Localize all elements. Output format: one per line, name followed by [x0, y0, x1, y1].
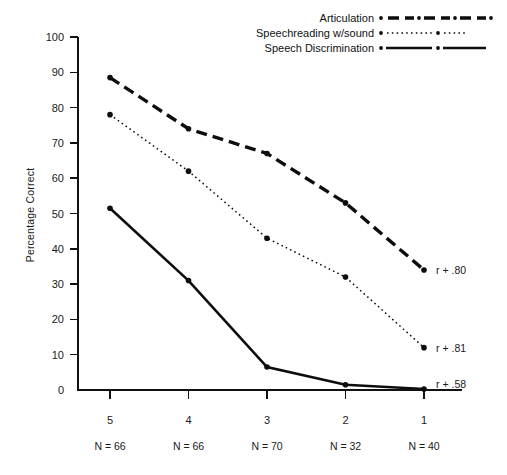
- x-sublabel-3: N = 70: [251, 440, 282, 452]
- data-point-speech-discrimination-3: [264, 364, 270, 370]
- y-tick-label-0: 0: [58, 384, 64, 396]
- y-axis-ticks: [70, 37, 78, 355]
- x-tick-label-2: 2: [342, 414, 348, 426]
- series-line-articulation: [110, 78, 424, 270]
- y-tick-label-50: 50: [52, 208, 64, 220]
- data-point-speech-discrimination-1: [421, 386, 427, 392]
- legend-entry-discrimination: Speech Discrimination: [265, 42, 486, 54]
- y-tick-label-90: 90: [52, 66, 64, 78]
- data-point-speechreading-w-sound-3: [264, 235, 270, 241]
- data-point-articulation-1: [421, 267, 427, 273]
- data-point-speechreading-w-sound-1: [421, 345, 427, 351]
- y-axis-title: Percentage Correct: [24, 168, 36, 263]
- annotation-articulation: r + .80: [436, 264, 466, 276]
- legend-marker-speechreading: [379, 31, 383, 35]
- y-tick-label-70: 70: [52, 137, 64, 149]
- x-axis-ticks: [110, 390, 424, 399]
- line-chart-canvas: Articulation Speechreading w/sound Speec…: [0, 0, 507, 475]
- legend-entry-speechreading: Speechreading w/sound: [256, 27, 468, 39]
- legend-marker-speechreading-2: [436, 31, 440, 35]
- chart-axes: [78, 37, 462, 390]
- x-tick-label-5: 5: [107, 414, 113, 426]
- chart-series-layer: [107, 75, 427, 392]
- data-point-articulation-2: [343, 200, 349, 206]
- x-sublabel-2: N = 32: [330, 440, 361, 452]
- annotation-speechreading: r + .81: [436, 342, 466, 354]
- data-point-speech-discrimination-2: [343, 382, 349, 388]
- x-tick-label-3: 3: [264, 414, 270, 426]
- x-axis-tick-labels: 5 4 3 2 1: [107, 414, 427, 426]
- legend-marker-articulation: [379, 16, 383, 20]
- x-sublabel-1: N = 40: [408, 440, 439, 452]
- data-point-articulation-3: [264, 151, 270, 157]
- x-tick-label-1: 1: [421, 414, 427, 426]
- legend-marker-articulation-2: [417, 16, 421, 20]
- series-articulation: [107, 75, 427, 273]
- data-point-speechreading-w-sound-4: [186, 168, 192, 174]
- y-tick-label-60: 60: [52, 172, 64, 184]
- legend-marker-discrimination-2: [436, 46, 440, 50]
- data-point-speechreading-w-sound-2: [343, 274, 349, 280]
- data-point-speech-discrimination-4: [186, 278, 192, 284]
- y-tick-label-40: 40: [52, 243, 64, 255]
- data-point-articulation-4: [186, 126, 192, 132]
- chart-legend: Articulation Speechreading w/sound Speec…: [256, 12, 493, 54]
- legend-label-speechreading: Speechreading w/sound: [256, 27, 374, 39]
- x-sublabel-5: N = 66: [94, 440, 125, 452]
- chart-figure: Articulation Speechreading w/sound Speec…: [0, 0, 507, 475]
- y-tick-label-30: 30: [52, 278, 64, 290]
- series-line-speech-discrimination: [110, 208, 424, 389]
- annotation-discrimination: r + .58: [436, 378, 466, 390]
- x-sublabel-4: N = 66: [173, 440, 204, 452]
- y-tick-label-100: 100: [46, 31, 64, 43]
- y-axis-tick-labels: 100 90 80 70 60 50 40 30 20 10 0: [46, 31, 64, 396]
- legend-marker-discrimination: [379, 46, 383, 50]
- legend-label-discrimination: Speech Discrimination: [265, 42, 374, 54]
- chart-annotations: r + .80 r + .81 r + .58: [436, 264, 466, 390]
- x-axis-sample-sizes: N = 66 N = 66 N = 70 N = 32 N = 40: [94, 440, 439, 452]
- x-tick-label-4: 4: [185, 414, 191, 426]
- legend-label-articulation: Articulation: [320, 12, 374, 24]
- legend-marker-articulation-4: [489, 16, 493, 20]
- y-tick-label-20: 20: [52, 313, 64, 325]
- data-point-articulation-5: [107, 75, 113, 81]
- legend-entry-articulation: Articulation: [320, 12, 493, 24]
- y-tick-label-10: 10: [52, 349, 64, 361]
- data-point-speechreading-w-sound-5: [107, 112, 113, 118]
- y-tick-label-80: 80: [52, 102, 64, 114]
- legend-marker-articulation-3: [453, 16, 457, 20]
- data-point-speech-discrimination-5: [107, 205, 113, 211]
